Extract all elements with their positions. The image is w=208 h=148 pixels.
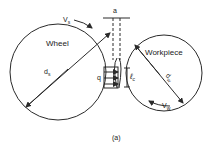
depth-of-cut: a bbox=[103, 7, 130, 60]
depth-of-cut-label: a bbox=[113, 7, 117, 14]
heat-flux-label: q bbox=[97, 74, 101, 82]
heat-flux: q bbox=[97, 58, 121, 88]
workpiece: Workpiece Vw dw bbox=[126, 35, 202, 111]
wheel: Wheel Vs ds bbox=[10, 16, 110, 120]
workpiece-label: Workpiece bbox=[145, 48, 183, 57]
figure-caption: (a) bbox=[112, 134, 121, 142]
workpiece-velocity-label: Vw bbox=[162, 102, 171, 111]
workpiece-diameter-label: dw bbox=[163, 72, 175, 84]
grinding-diagram: Wheel Vs ds Workpiece Vw dw a q ℓc (a) bbox=[0, 0, 208, 148]
wheel-diameter-label: ds bbox=[44, 68, 51, 77]
wheel-label: Wheel bbox=[46, 39, 69, 48]
wheel-velocity-label: Vs bbox=[63, 16, 71, 25]
wheel-rotation-arrow bbox=[74, 20, 92, 28]
contact-length-label: ℓc bbox=[129, 72, 136, 82]
